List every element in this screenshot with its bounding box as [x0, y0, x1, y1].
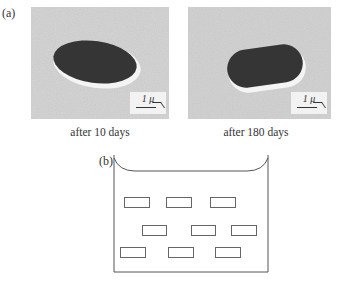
panel-a-label: (a): [2, 7, 15, 19]
scale-bar-line: [136, 107, 156, 108]
scale-bar: 1 μ: [130, 92, 166, 114]
specimen: [143, 226, 167, 236]
container-outline: [114, 155, 268, 272]
tank-diagram: [113, 155, 269, 273]
specimen: [121, 248, 146, 258]
specimen: [169, 248, 194, 258]
scale-bar: 1 μ: [291, 92, 327, 114]
specimen: [216, 248, 241, 258]
caption-10-days: after 10 days: [40, 126, 160, 138]
specimen: [125, 198, 150, 208]
micrograph-10-days: 1 μ: [31, 7, 169, 119]
micrograph-180-days: 1 μ: [188, 7, 331, 119]
caption-180-days: after 180 days: [196, 126, 316, 138]
specimens: [121, 198, 257, 258]
specimen: [211, 198, 236, 208]
panel-b-label: (b): [99, 155, 113, 167]
scale-bar-line: [297, 107, 317, 108]
specimen: [192, 226, 216, 236]
specimen: [167, 198, 192, 208]
specimen: [232, 226, 257, 236]
liquid-surface: [114, 158, 268, 171]
